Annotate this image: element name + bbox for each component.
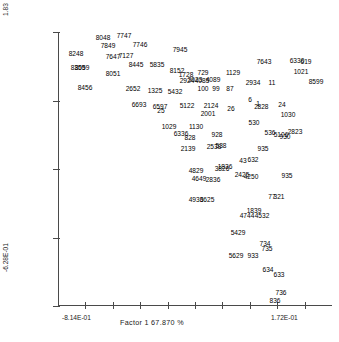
data-point-label: 530 — [248, 119, 259, 126]
x-axis-tick — [222, 302, 223, 309]
data-point-label: 26 — [227, 105, 234, 112]
data-point-label: 4532 — [255, 212, 270, 219]
data-point-label: 2001 — [201, 110, 216, 117]
data-point-label: 43 — [239, 157, 246, 164]
data-point-label: 828 — [257, 103, 268, 110]
data-point-label: 24 — [278, 101, 285, 108]
data-point-label: 538 — [215, 142, 226, 149]
x-axis-tick — [85, 302, 86, 309]
y-axis-tick — [53, 238, 60, 239]
data-point-label: 2124 — [204, 102, 219, 109]
data-point-label: 1029 — [162, 123, 177, 130]
x-axis-tick — [250, 302, 251, 309]
data-point-label: 4829 — [189, 167, 204, 174]
data-point-label: 4089 — [206, 76, 221, 83]
x-axis-tick — [140, 302, 141, 309]
data-point-label: 935 — [281, 172, 292, 179]
data-point-label: 2139 — [181, 145, 196, 152]
data-point-label: 729 — [197, 69, 208, 76]
data-point-label: 87 — [226, 85, 233, 92]
data-point-label: 4744 — [240, 212, 255, 219]
data-point-label: 619 — [300, 58, 311, 65]
data-point-label: 8456 — [78, 84, 93, 91]
data-point-label: 8445 — [129, 61, 144, 68]
data-point-label: 3625 — [200, 196, 215, 203]
data-point-label: 1130 — [189, 123, 203, 130]
x-axis-title: Factor 1 67.870 % — [120, 318, 184, 327]
data-point-label: 4649 — [192, 175, 207, 182]
x-axis-tick — [305, 302, 306, 309]
y-axis-tick — [53, 169, 60, 170]
data-point-label: 928 — [211, 131, 222, 138]
data-point-label: 6693 — [132, 101, 147, 108]
data-point-label: 100 — [197, 85, 208, 92]
data-point-label: 2836 — [206, 176, 221, 183]
x-axis-tick — [195, 302, 196, 309]
data-point-label: 6 — [248, 96, 252, 103]
data-point-label: 11 — [269, 79, 276, 86]
data-point-label: 8059 — [75, 64, 90, 71]
data-point-label: 2652 — [126, 85, 141, 92]
data-point-label: 7746 — [133, 41, 148, 48]
data-point-label: 99 — [212, 85, 219, 92]
data-point-label: 633 — [273, 271, 284, 278]
x-axis-tick — [113, 302, 114, 309]
data-point-label: 836 — [269, 297, 280, 304]
data-point-label: 933 — [247, 252, 258, 259]
data-point-label: 5629 — [229, 252, 244, 259]
data-point-label: 5429 — [231, 229, 246, 236]
data-point-label: 7643 — [257, 58, 272, 65]
data-point-label: 634 — [262, 266, 273, 273]
data-point-label: 5835 — [150, 61, 165, 68]
data-point-label: 1021 — [294, 68, 309, 75]
data-point-label: 7747 — [117, 32, 132, 39]
y-axis-tick — [53, 101, 60, 102]
data-point-label: 1325 — [148, 87, 163, 94]
data-point-label: 4250 — [244, 173, 259, 180]
data-point-label: 321 — [273, 193, 284, 200]
y-axis-tick — [53, 32, 60, 33]
data-point-label: 736 — [275, 289, 286, 296]
data-point-label: 2823 — [288, 128, 303, 135]
data-point-label: 828 — [184, 134, 195, 141]
x-axis-max-label: 1.72E-01 — [271, 314, 298, 321]
data-point-label: 7849 — [101, 42, 116, 49]
y-axis-max-label: 1.83 — [2, 3, 9, 16]
data-point-label: 1836 — [218, 163, 233, 170]
data-point-label: 7127 — [119, 52, 134, 59]
data-point-label: 8048 — [96, 34, 111, 41]
data-point-label: 735 — [261, 245, 272, 252]
data-point-label: 1129 — [226, 69, 240, 76]
data-point-label: 5432 — [168, 88, 183, 95]
data-point-label: 1030 — [281, 111, 296, 118]
data-point-label: 7945 — [173, 46, 188, 53]
y-axis-tick — [53, 306, 60, 307]
data-point-label: 5122 — [180, 102, 195, 109]
data-point-label: 25 — [157, 107, 164, 114]
data-point-label: 8599 — [309, 78, 324, 85]
data-point-label: 8051 — [106, 70, 121, 77]
y-axis-min-label: -6.28E-01 — [2, 243, 9, 272]
data-point-label: 2934 — [246, 79, 261, 86]
data-point-label: 8248 — [69, 50, 84, 57]
x-axis-min-label: -8.14E-01 — [62, 314, 91, 321]
scatter-plot: 1.83 -6.28E-01 -8.14E-01 1.72E-01 Factor… — [0, 0, 339, 342]
x-axis-tick — [168, 302, 169, 309]
data-point-label: 935 — [257, 145, 268, 152]
data-point-label: 632 — [247, 156, 258, 163]
